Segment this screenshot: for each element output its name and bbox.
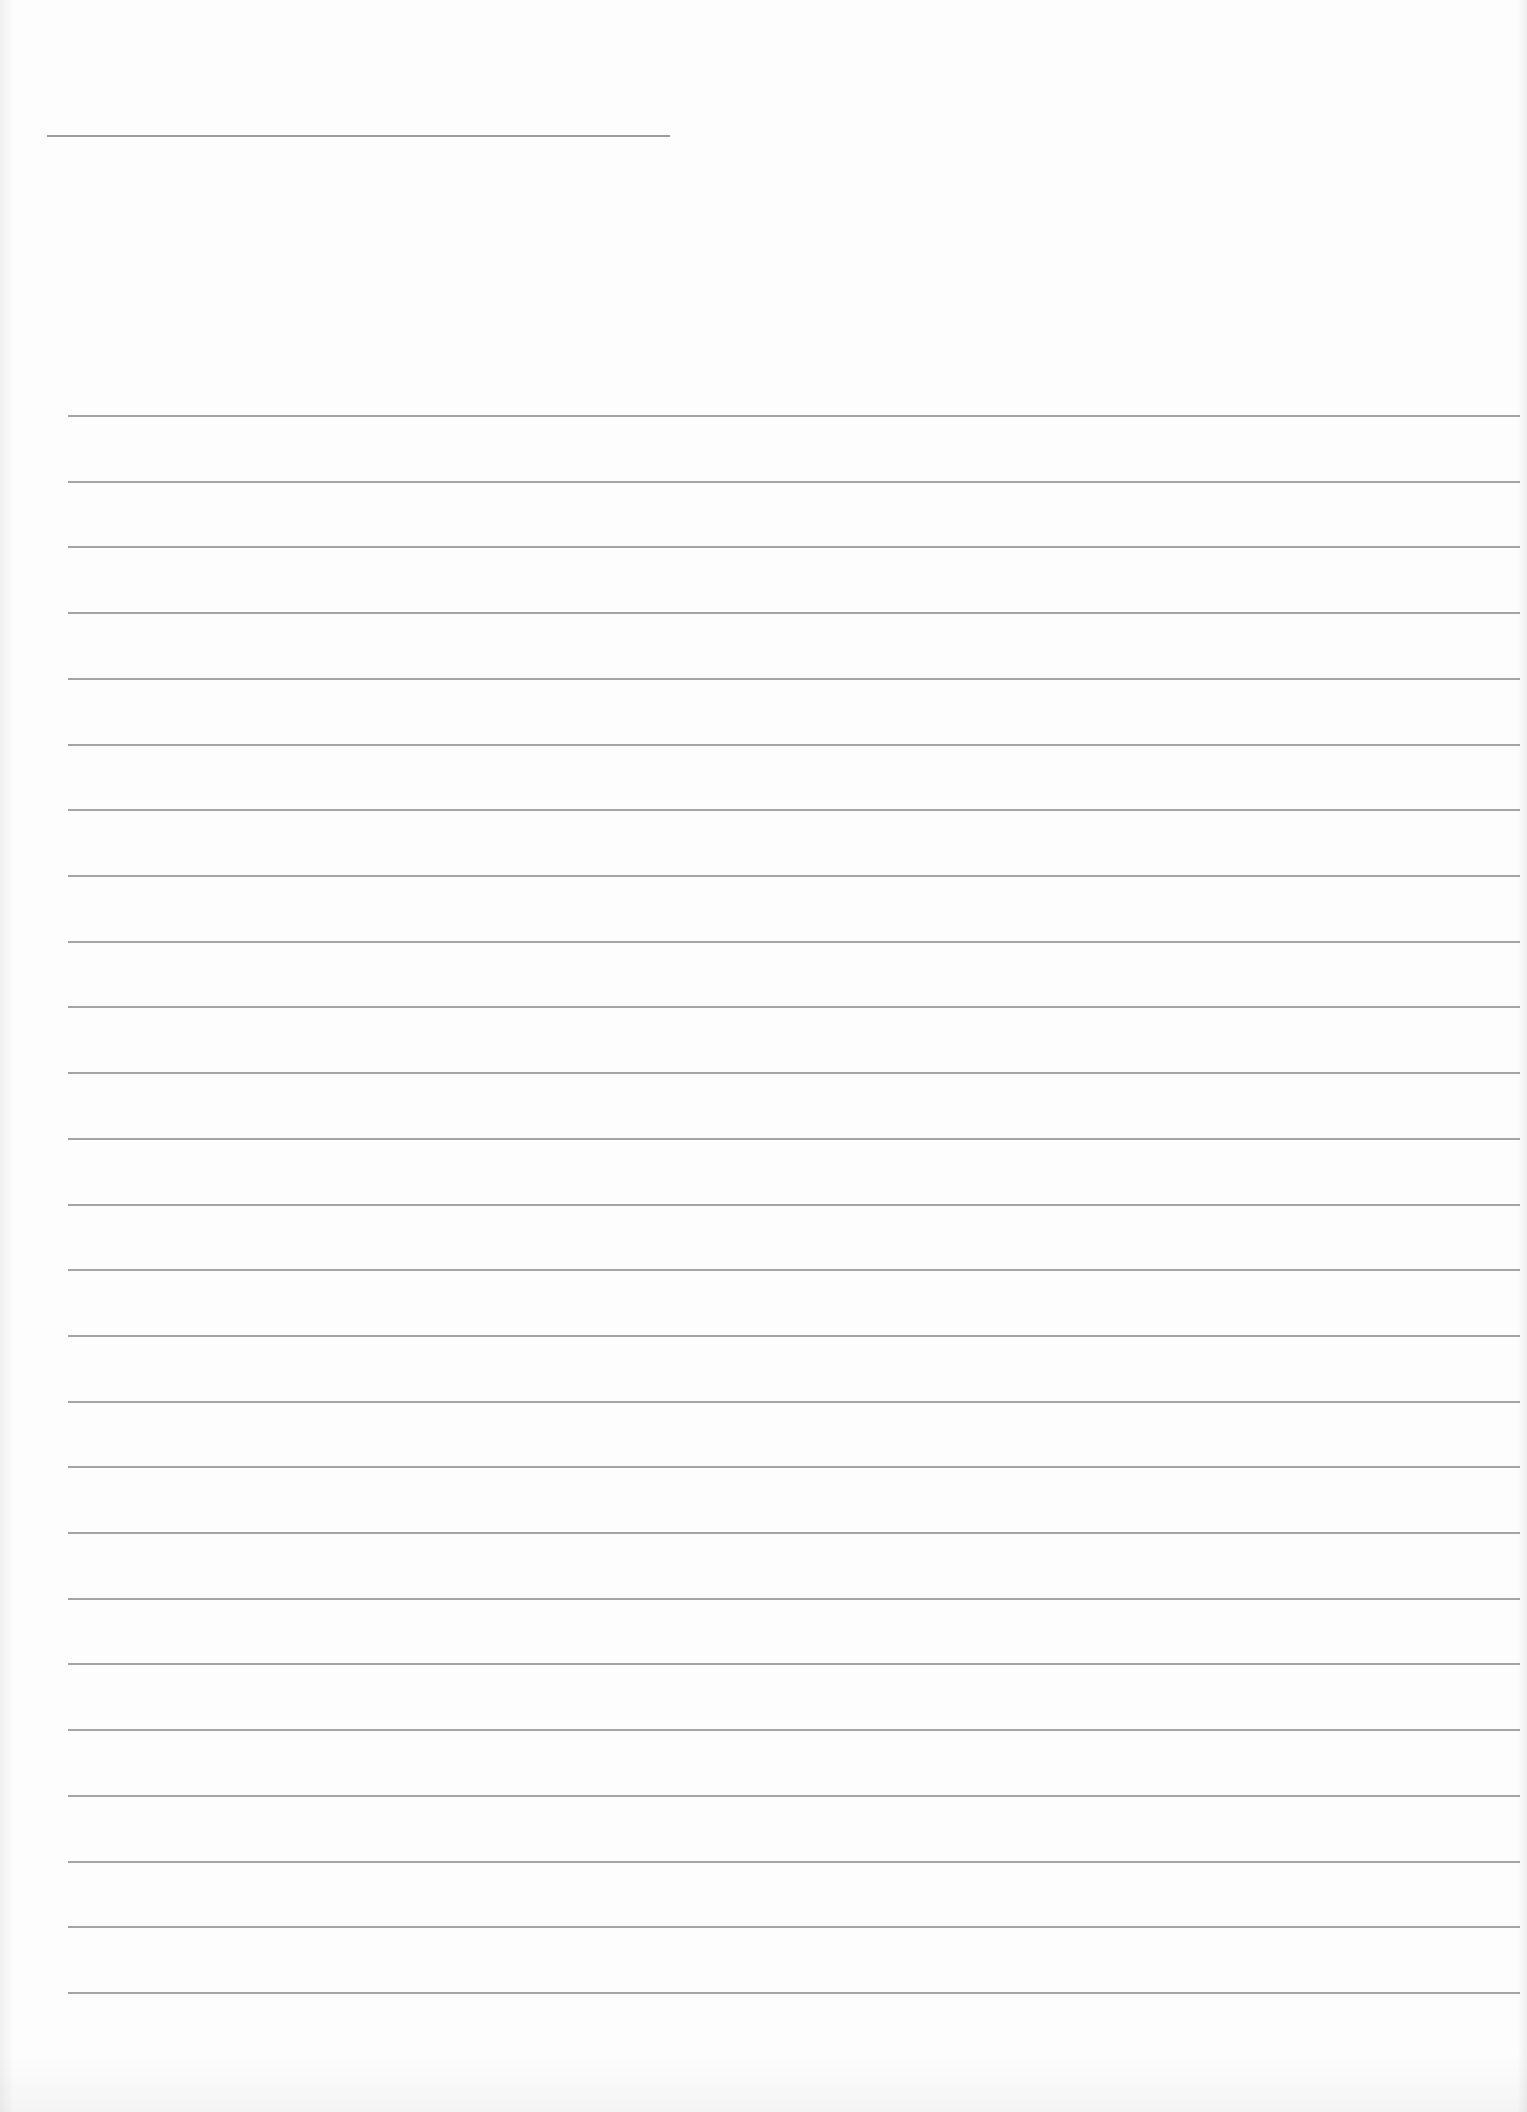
ruled-line[interactable] xyxy=(68,1401,1520,1403)
ruled-line[interactable] xyxy=(68,1269,1520,1271)
ruled-line[interactable] xyxy=(68,809,1520,811)
ruled-line[interactable] xyxy=(68,678,1520,680)
ruled-line[interactable] xyxy=(68,1926,1520,1928)
ruled-line[interactable] xyxy=(68,1663,1520,1665)
ruled-line[interactable] xyxy=(68,481,1520,483)
ruled-line[interactable] xyxy=(68,546,1520,548)
ruled-line[interactable] xyxy=(68,1466,1520,1468)
ruled-line[interactable] xyxy=(68,1204,1520,1206)
ruled-line[interactable] xyxy=(68,875,1520,877)
ruled-line[interactable] xyxy=(68,744,1520,746)
ruled-line[interactable] xyxy=(68,612,1520,614)
lined-paper-page xyxy=(0,0,1527,2112)
ruled-line[interactable] xyxy=(68,1335,1520,1337)
ruled-line[interactable] xyxy=(68,1992,1520,1994)
ruled-line[interactable] xyxy=(68,1006,1520,1008)
ruled-line[interactable] xyxy=(68,1729,1520,1731)
ruled-line[interactable] xyxy=(68,1795,1520,1797)
ruled-line[interactable] xyxy=(68,1138,1520,1140)
ruled-line[interactable] xyxy=(68,1072,1520,1074)
ruled-line[interactable] xyxy=(68,1598,1520,1600)
ruled-line[interactable] xyxy=(68,1861,1520,1863)
ruled-line[interactable] xyxy=(68,1532,1520,1534)
ruled-lines-container xyxy=(68,0,1520,2112)
ruled-line[interactable] xyxy=(68,941,1520,943)
ruled-line[interactable] xyxy=(68,415,1520,417)
